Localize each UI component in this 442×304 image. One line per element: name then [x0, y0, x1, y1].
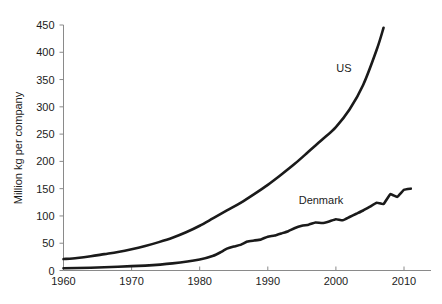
x-tick-label: 1970 [119, 275, 143, 287]
y-tick-label: 100 [36, 210, 54, 222]
y-tick-label: 150 [36, 183, 54, 195]
line-chart: 050100150200250300350400450 196019701980… [0, 0, 442, 304]
y-axis-ticks: 050100150200250300350400450 [36, 19, 63, 277]
x-tick-label: 1960 [51, 275, 75, 287]
series-line-denmark [64, 189, 411, 269]
x-tick-label: 2010 [392, 275, 416, 287]
y-tick-label: 300 [36, 101, 54, 113]
y-tick-label: 450 [36, 19, 54, 31]
y-axis-title: Million kg per company [12, 91, 24, 204]
x-tick-label: 1980 [187, 275, 211, 287]
y-tick-label: 200 [36, 155, 54, 167]
x-tick-label: 2000 [324, 275, 348, 287]
series-label-denmark: Denmark [299, 194, 344, 206]
y-tick-label: 400 [36, 46, 54, 58]
x-axis-ticks: 196019701980199020002010 [51, 267, 416, 287]
y-tick-label: 50 [42, 237, 54, 249]
y-tick-label: 250 [36, 128, 54, 140]
series-label-us: US [336, 62, 351, 74]
x-tick-label: 1990 [256, 275, 280, 287]
y-tick-label: 350 [36, 74, 54, 86]
chart-container: 050100150200250300350400450 196019701980… [0, 0, 442, 304]
